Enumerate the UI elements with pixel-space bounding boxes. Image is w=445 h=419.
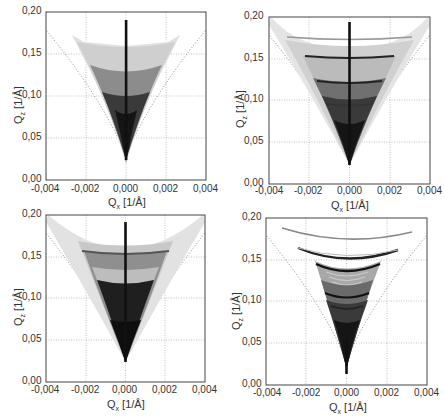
y-tick: 0,20 (242, 211, 261, 222)
y-tick: 0,10 (242, 294, 261, 305)
y-axis-label: Qz [1/Å] (230, 292, 244, 330)
x-tick: 0,000 (334, 387, 359, 398)
x-tick: 0,004 (414, 387, 439, 398)
x-tick: -0,002 (292, 387, 320, 398)
y-tick: 0,15 (242, 253, 261, 264)
x-tick: 0,002 (374, 387, 399, 398)
x-axis-label: Qx [1/Å] (329, 401, 367, 415)
x-tick: -0,004 (253, 387, 281, 398)
plot-area-bottom-right (0, 0, 445, 419)
y-tick: 0,05 (242, 336, 261, 347)
panel-bottom-right: 0,20 0,15 0,10 0,05 0,00 -0,004 -0,002 0… (0, 0, 445, 419)
